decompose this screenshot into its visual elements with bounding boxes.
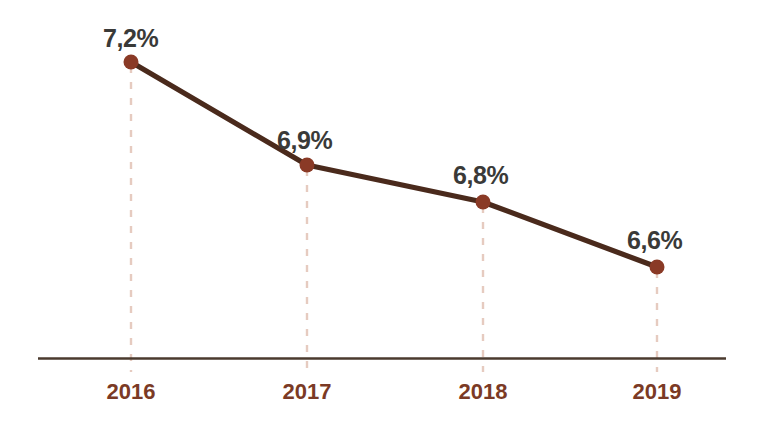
x-tick-label-2018: 2018 — [459, 381, 508, 403]
droplines-group — [131, 66, 657, 372]
series-line-group — [131, 62, 657, 267]
x-tick-label-2017: 2017 — [283, 381, 332, 403]
line-chart: 7,2% 6,9% 6,8% 6,6% 2016 2017 2018 2019 — [0, 0, 763, 441]
data-point-2018[interactable] — [476, 195, 491, 210]
data-point-2017[interactable] — [300, 158, 315, 173]
chart-canvas — [0, 0, 763, 441]
value-label-2016: 7,2% — [103, 26, 158, 51]
x-tick-label-2019: 2019 — [633, 381, 682, 403]
value-label-2018: 6,8% — [453, 163, 508, 188]
data-point-2016[interactable] — [124, 55, 139, 70]
x-tick-label-2016: 2016 — [107, 381, 156, 403]
value-label-2019: 6,6% — [627, 228, 682, 253]
series-line — [131, 62, 657, 267]
value-label-2017: 6,9% — [277, 128, 332, 153]
data-point-2019[interactable] — [650, 260, 665, 275]
